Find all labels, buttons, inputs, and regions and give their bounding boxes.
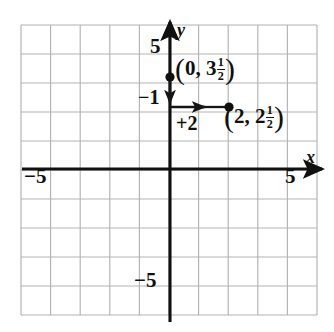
point-b-label: ((2, 22, 212) (224, 104, 284, 130)
point-a-dot (165, 72, 174, 81)
horizontal-step-label: +2 (176, 113, 197, 133)
point-b-fraction-numerator: 1 (266, 104, 274, 117)
x-axis-label: x (306, 148, 315, 166)
point-a-fraction: 12 (217, 56, 225, 82)
coordinate-plane-figure (0, 0, 334, 332)
point-a-label-body: 0, 3 (185, 56, 217, 80)
y-tick-negative-5: −5 (134, 270, 156, 291)
point-a-fraction-denominator: 2 (217, 69, 225, 83)
point-b-close-paren: ) (274, 105, 284, 129)
y-axis-label: y (177, 21, 185, 39)
point-b-fraction: 12 (266, 104, 274, 130)
point-a-label: ((0, 30, 312) (175, 56, 235, 82)
point-a-close-paren: ) (225, 57, 235, 81)
y-tick-positive-5: 5 (150, 36, 161, 57)
point-a-fraction-numerator: 1 (217, 56, 225, 69)
x-tick-positive-5: 5 (285, 166, 296, 187)
vertical-step-label: −1 (138, 87, 159, 107)
x-tick-negative-5: −5 (24, 166, 46, 187)
point-b-fraction-denominator: 2 (266, 117, 274, 131)
point-a-open-paren: ( (175, 57, 185, 81)
point-b-label-body: 2, 2 (234, 104, 266, 128)
point-b-open-paren: ( (224, 105, 234, 129)
